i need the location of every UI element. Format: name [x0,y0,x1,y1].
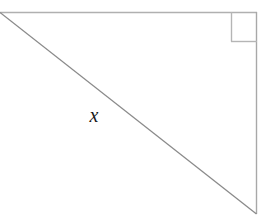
geometry-figure: x [0,0,261,223]
hypotenuse-label-x: x [82,104,106,126]
triangle-canvas [0,0,261,223]
right-angle-marker-icon [231,12,257,42]
hypotenuse-line [0,13,257,215]
